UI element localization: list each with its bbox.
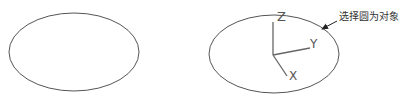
y-axis-line xyxy=(273,48,310,55)
x-axis-line xyxy=(273,55,287,76)
x-axis-label: X xyxy=(289,69,297,83)
right-ellipse[interactable] xyxy=(209,15,339,93)
ucs-icon: Z Y X xyxy=(273,9,318,83)
z-axis-label: Z xyxy=(277,9,286,24)
annotation-arrow xyxy=(322,21,337,29)
y-axis-label: Y xyxy=(309,37,318,51)
left-ellipse xyxy=(9,13,139,91)
annotation-text: 选择圆为对象 xyxy=(339,10,399,22)
diagram-canvas: Z Y X 选择圆为对象 xyxy=(0,0,415,103)
